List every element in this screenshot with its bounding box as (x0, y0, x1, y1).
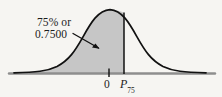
axis-label-p75: P75 (120, 78, 135, 95)
percentile-subscript: 75 (127, 86, 135, 95)
percent-label-line-2: 0.7500 (35, 28, 67, 40)
normal-curve-plot (0, 0, 222, 97)
axis-label-zero: 0 (104, 78, 110, 90)
percent-label-line-1: 75% or (37, 16, 71, 28)
normal-distribution-figure: 75% or 0.7500 0 P75 (0, 0, 222, 97)
